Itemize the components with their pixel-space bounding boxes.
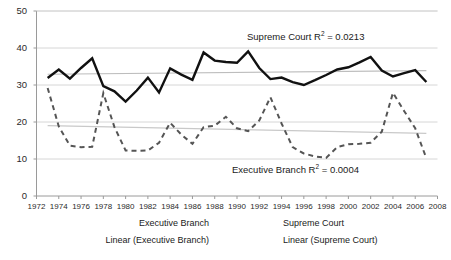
legend-row-series: Executive Branch Supreme Court <box>0 218 443 228</box>
legend-item-linear-supreme-court[interactable]: Linear (Supreme Court) <box>243 235 378 245</box>
y-axis-label-0: 0 <box>5 191 27 201</box>
legend-item-supreme-court[interactable]: Supreme Court <box>243 218 344 228</box>
annotation-eb-suffix: = 0.0004 <box>319 164 359 175</box>
y-axis-label-20: 20 <box>5 117 27 127</box>
legend-item-executive-branch[interactable]: Executive Branch <box>99 218 209 228</box>
trendline-supreme-court <box>48 71 427 75</box>
trendlines <box>48 71 427 134</box>
legend-label-supreme-court: Supreme Court <box>283 218 344 228</box>
y-axis-label-10: 10 <box>5 154 27 164</box>
annotation-executive-branch-r2: Executive Branch R2 = 0.0004 <box>232 164 359 175</box>
dashed-key-icon <box>99 223 133 224</box>
annotation-supreme-court-r2: Supreme Court R2 = 0.0213 <box>247 31 364 42</box>
legend-label-linear-supreme-court: Linear (Supreme Court) <box>283 235 378 245</box>
legend-label-executive-branch: Executive Branch <box>139 218 209 228</box>
thin-line-key-icon <box>65 240 99 241</box>
annotation-sc-suffix: = 0.0213 <box>325 31 365 42</box>
thin-line-key-icon-2 <box>243 240 277 241</box>
chart-legend: Executive Branch Supreme Court Linear (E… <box>0 218 443 260</box>
annotation-eb-prefix: Executive Branch R <box>232 164 315 175</box>
annotation-sc-prefix: Supreme Court R <box>247 31 321 42</box>
y-axis-label-30: 30 <box>5 80 27 90</box>
data-series <box>48 51 427 158</box>
y-axis-label-50: 50 <box>5 6 27 16</box>
x-axis-label-2008: 2008 <box>425 202 451 212</box>
series-line-executive-branch <box>48 88 427 158</box>
solid-key-icon <box>243 223 277 224</box>
legend-label-linear-executive-branch: Linear (Executive Branch) <box>105 235 209 245</box>
series-line-supreme-court <box>48 51 427 101</box>
legend-row-trendlines: Linear (Executive Branch) Linear (Suprem… <box>0 235 443 245</box>
legend-item-linear-executive-branch[interactable]: Linear (Executive Branch) <box>65 235 209 245</box>
y-axis-label-40: 40 <box>5 43 27 53</box>
